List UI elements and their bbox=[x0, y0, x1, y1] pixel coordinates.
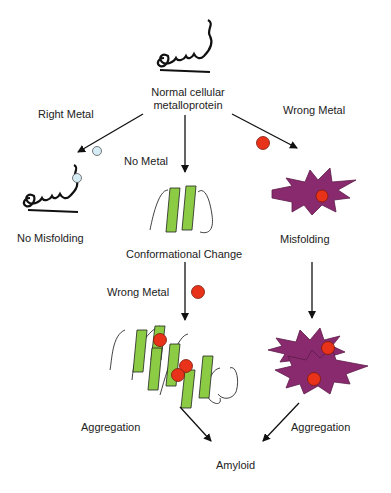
no-misfolding-protein-coil-icon bbox=[24, 165, 78, 212]
aggregated-misfolded-proteins-icon bbox=[268, 328, 368, 394]
right-metal-ion-icon bbox=[93, 147, 102, 156]
diagram-canvas bbox=[0, 0, 391, 493]
wrong-metal-label-top: Wrong Metal bbox=[283, 104, 345, 117]
normal-protein-coil-icon bbox=[158, 20, 211, 72]
bound-right-metal-ion-icon bbox=[73, 174, 82, 183]
conformational-change-beta-sheet-icon bbox=[150, 186, 213, 233]
arrow-left-aggregation-to-amyloid bbox=[180, 407, 211, 441]
amyloid-label: Amyloid bbox=[216, 459, 255, 472]
wrong-metal-ion-icon bbox=[257, 137, 270, 150]
conformational-change-label: Conformational Change bbox=[126, 248, 242, 261]
aggregation-left-label: Aggregation bbox=[81, 421, 140, 434]
normal-label-line1: Normal cellular bbox=[140, 86, 236, 99]
no-metal-label: No Metal bbox=[124, 155, 168, 168]
misfolding-label: Misfolding bbox=[280, 233, 330, 246]
no-misfolding-label: No Misfolding bbox=[17, 232, 84, 245]
normal-metalloprotein-label: Normal cellular metalloprotein bbox=[140, 86, 236, 112]
aggregated-beta-sheets-icon bbox=[110, 326, 238, 408]
normal-label-line2: metalloprotein bbox=[140, 99, 236, 112]
misfolded-protein-star-icon bbox=[272, 168, 356, 215]
right-metal-label: Right Metal bbox=[38, 108, 94, 121]
aggregation-right-label: Aggregation bbox=[291, 421, 350, 434]
wrong-metal-ion-middle-icon bbox=[192, 286, 205, 299]
wrong-metal-label-middle: Wrong Metal bbox=[107, 286, 169, 299]
